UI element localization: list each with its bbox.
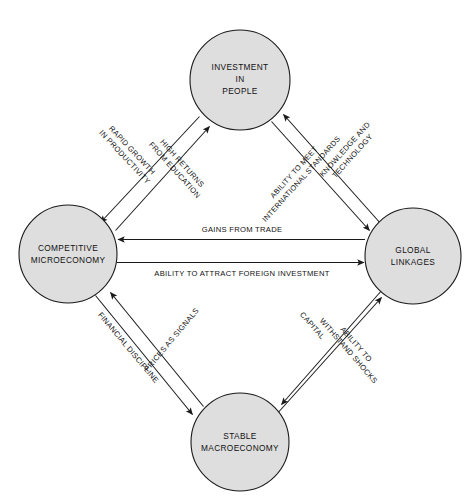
edge-capital: CAPITAL bbox=[282, 290, 383, 405]
edge-ability-to-attract-foreign-investment: ABILITY TO ATTRACT FOREIGN INVESTMENT bbox=[117, 263, 364, 279]
edge-ability-to-withstand-shocks: ABILITY TO WITHSTAND SHOCKS bbox=[276, 298, 387, 416]
diagram-canvas: RAPID GROWTH IN PRODUCTIVITY HIGH RETURN… bbox=[0, 0, 476, 498]
node-label-stable-macroeconomy-line1: STABLE bbox=[223, 431, 256, 441]
edge-line-financial-discipline bbox=[96, 296, 193, 415]
node-label-global-linkages-line1: GLOBAL bbox=[395, 245, 430, 255]
node-competitive-microeconomy[interactable]: COMPETITIVE MICROECONOMY bbox=[19, 205, 117, 303]
node-circle-competitive-microeconomy[interactable] bbox=[19, 205, 117, 303]
node-stable-macroeconomy[interactable]: STABLE MACROECONOMY bbox=[191, 393, 289, 491]
node-circle-global-linkages[interactable] bbox=[365, 208, 461, 304]
edge-label-financial-discipline: FINANCIAL DISCIPLINE bbox=[96, 310, 161, 385]
node-label-competitive-microeconomy-line2: MICROECONOMY bbox=[31, 255, 106, 265]
edge-label-ability-to-withstand-shocks-line2: WITHSTAND SHOCKS bbox=[318, 316, 380, 385]
edge-gains-from-trade: GAINS FROM TRADE bbox=[118, 225, 365, 240]
edge-label-gains-from-trade: GAINS FROM TRADE bbox=[202, 225, 283, 234]
edge-label-ability-to-meet-international-standards-line2: INTERNATIONAL STANDARDS bbox=[260, 134, 342, 223]
node-label-stable-macroeconomy-line2: MACROECONOMY bbox=[201, 443, 279, 453]
node-global-linkages[interactable]: GLOBAL LINKAGES bbox=[365, 208, 461, 304]
edge-label-ability-to-attract-foreign-investment: ABILITY TO ATTRACT FOREIGN INVESTMENT bbox=[154, 269, 329, 278]
node-label-investment-in-people-line2: IN bbox=[236, 74, 245, 84]
node-investment-in-people[interactable]: INVESTMENT IN PEOPLE bbox=[190, 30, 290, 130]
node-circle-stable-macroeconomy[interactable] bbox=[191, 393, 289, 491]
diagram-svg: RAPID GROWTH IN PRODUCTIVITY HIGH RETURN… bbox=[0, 0, 476, 498]
node-label-global-linkages-line2: LINKAGES bbox=[391, 257, 435, 267]
edge-line-capital bbox=[282, 290, 383, 405]
node-label-investment-in-people-line3: PEOPLE bbox=[222, 86, 257, 96]
node-label-competitive-microeconomy-line1: COMPETITIVE bbox=[38, 243, 98, 253]
node-label-investment-in-people-line1: INVESTMENT bbox=[212, 62, 269, 72]
edge-financial-discipline: FINANCIAL DISCIPLINE bbox=[96, 296, 193, 415]
